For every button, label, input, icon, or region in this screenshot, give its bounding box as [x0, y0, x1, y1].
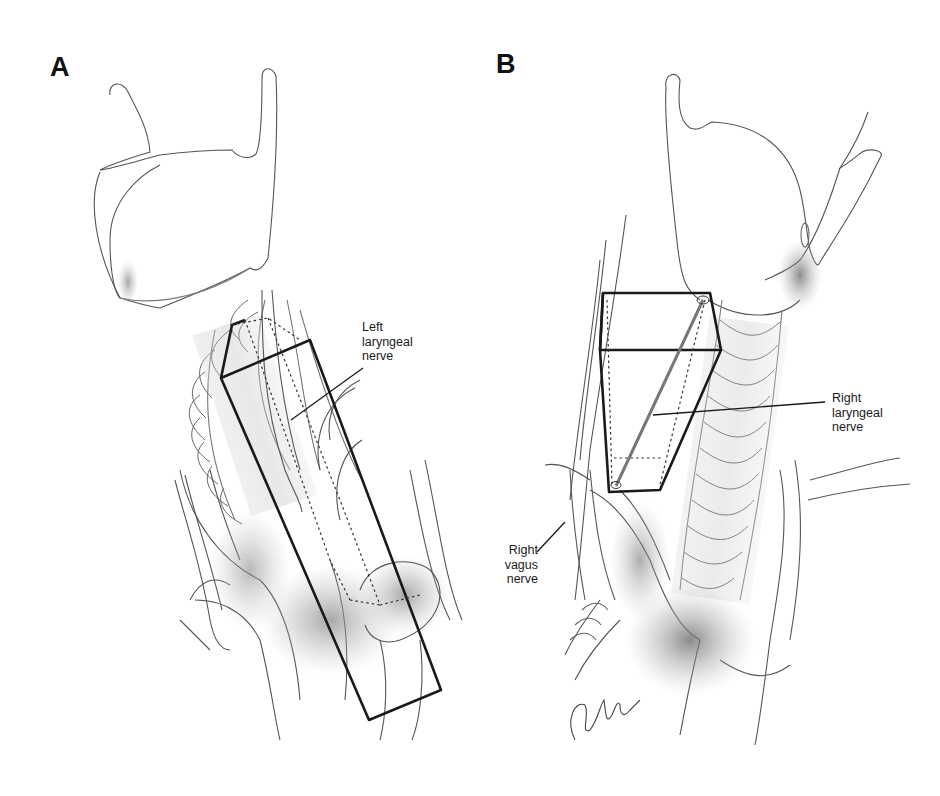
- illustration-canvas: [0, 0, 940, 796]
- left-laryngeal-nerve-leader-line: [291, 368, 363, 420]
- anatomical-figure: A B Left laryngeal nerve Right laryngeal…: [0, 0, 940, 796]
- right-vagus-nerve-leader-line: [537, 522, 565, 552]
- panel-a-letter: A: [50, 54, 70, 81]
- panel-b-letter: B: [496, 51, 516, 78]
- label-right-laryngeal-nerve: Right laryngeal nerve: [832, 391, 883, 435]
- figure-caption-truncated: [0, 784, 940, 796]
- label-right-vagus-nerve: Right vagus nerve: [490, 543, 538, 587]
- label-left-laryngeal-nerve: Left laryngeal nerve: [362, 320, 413, 364]
- panel-a-illustration: [94, 69, 462, 740]
